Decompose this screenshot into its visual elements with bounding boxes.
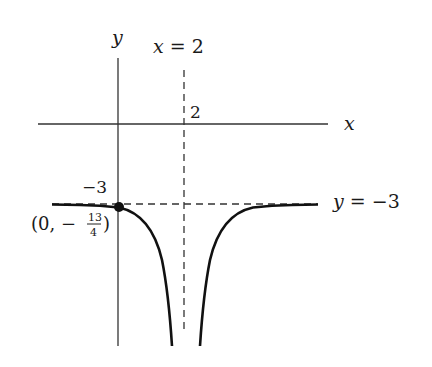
tick-label-two: 2	[190, 102, 201, 122]
y-axis-label: y	[111, 26, 123, 48]
point-label: (0, − 13 4 )	[31, 211, 110, 239]
graph-canvas: y x x = 2 y = −3 2 −3 (0, − 13 4 )	[0, 0, 432, 367]
vertical-asymptote-label: x = 2	[153, 35, 204, 57]
svg-text:): )	[103, 213, 110, 234]
svg-text:13: 13	[88, 211, 102, 224]
horizontal-asymptote-label: y = −3	[332, 190, 400, 212]
tick-label-neg-three: −3	[82, 177, 107, 197]
x-axis-label: x	[344, 112, 355, 134]
svg-text:4: 4	[90, 226, 97, 239]
svg-text:(0, −: (0, −	[31, 213, 76, 234]
curve-right-branch	[200, 205, 318, 347]
y-intercept-point	[114, 202, 124, 212]
